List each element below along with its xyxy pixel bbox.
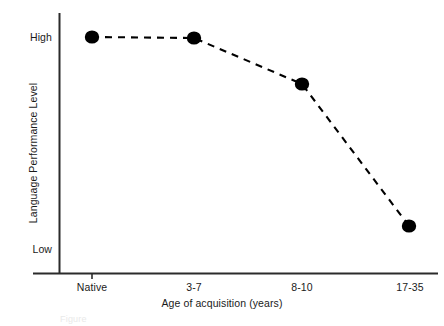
x-tick-label-3-7: 3-7: [186, 281, 201, 293]
data-point-marker[interactable]: [402, 219, 416, 232]
y-axis-title: Language Performance Level: [27, 58, 39, 248]
x-tick-label-8-10: 8-10: [291, 281, 312, 293]
y-tick-label-high: High: [20, 31, 52, 43]
figure-container: High Low Native 3-7 8-10 17-35 Age of ac…: [0, 0, 444, 326]
chart-plot-area: [0, 0, 444, 326]
data-point-marker[interactable]: [295, 77, 309, 90]
data-point-marker[interactable]: [85, 30, 99, 43]
data-line: [92, 37, 409, 226]
x-tick-label-17-35: 17-35: [396, 281, 423, 293]
x-axis-title: Age of acquisition (years): [0, 297, 444, 309]
data-point-marker[interactable]: [187, 31, 201, 44]
figure-caption: Figure: [60, 314, 87, 324]
x-tick-label-native: Native: [77, 281, 107, 293]
